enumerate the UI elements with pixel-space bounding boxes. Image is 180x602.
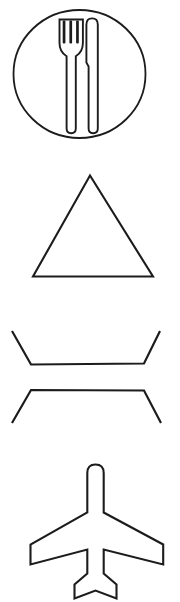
circle-outline [14, 10, 146, 138]
fork-tine-slot [63, 21, 66, 44]
icon-strip [0, 0, 180, 602]
bowtie-icon[interactable] [0, 300, 180, 440]
bowtie-icon-graphic [0, 300, 180, 440]
knife-outline [86, 18, 97, 133]
restaurant-icon-graphic [0, 0, 180, 150]
mountain-icon[interactable] [0, 150, 180, 300]
restaurant-icon[interactable] [0, 0, 180, 150]
fork-tine-slot [69, 21, 72, 44]
bowtie-lower-bracket [12, 390, 161, 423]
airplane-outline [31, 465, 164, 599]
fork-tine-slot [76, 21, 79, 44]
triangle-outline [33, 176, 153, 277]
airplane-icon[interactable] [0, 440, 180, 602]
mountain-icon-graphic [0, 150, 180, 300]
airplane-icon-graphic [0, 440, 180, 602]
bowtie-upper-bracket [12, 331, 160, 365]
